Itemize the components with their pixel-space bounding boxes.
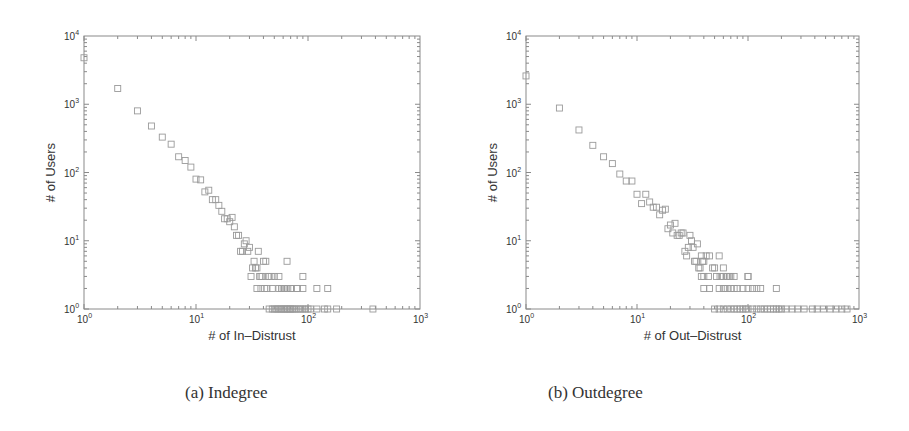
data-point-square [263, 258, 269, 264]
data-point-square [698, 273, 704, 279]
data-point-square [115, 86, 121, 92]
data-point-square [707, 285, 713, 291]
data-points [523, 73, 850, 312]
data-point-square [188, 164, 194, 170]
data-point-square [745, 273, 751, 279]
data-point-square [262, 285, 268, 291]
data-point-square [216, 202, 222, 208]
data-point-square [601, 154, 607, 160]
y-axis-label: # of Users [485, 142, 500, 202]
x-tick-label: 103 [852, 312, 867, 325]
data-point-square [148, 123, 154, 129]
data-point-square [294, 285, 300, 291]
data-point-square [300, 285, 306, 291]
y-tick-label: 101 [506, 234, 521, 247]
y-tick-label: 102 [64, 166, 79, 179]
data-point-square [692, 258, 698, 264]
caption-indegree: (a) Indegree [185, 383, 268, 403]
data-point-square [716, 285, 722, 291]
data-point-square [294, 285, 300, 291]
x-tick-label: 100 [519, 312, 534, 325]
data-point-square [629, 178, 635, 184]
plot-frame [84, 36, 420, 309]
data-point-square [176, 154, 182, 160]
data-point-square [168, 141, 174, 147]
y-tick-label: 104 [506, 29, 521, 42]
data-point-square [643, 191, 649, 197]
x-tick-label: 101 [630, 312, 645, 325]
data-point-square [236, 232, 242, 238]
data-point-square [720, 285, 726, 291]
outdegree-scatter-plot: 100101102103100101102103104# of Out–Dist… [450, 0, 909, 431]
data-point-square [219, 208, 225, 214]
data-point-square [754, 285, 760, 291]
indegree-scatter-plot: 100101102103100101102103104# of In–Distr… [0, 0, 450, 431]
data-point-square [590, 142, 596, 148]
data-point-square [694, 241, 700, 247]
data-point-square [639, 201, 645, 207]
panel-indegree: 100101102103100101102103104# of In–Distr… [0, 0, 450, 431]
data-point-square [260, 258, 266, 264]
x-tick-label: 101 [189, 312, 204, 325]
data-point-square [745, 273, 751, 279]
data-point-square [722, 285, 728, 291]
data-point-square [712, 265, 718, 271]
x-tick-label: 102 [741, 312, 756, 325]
data-point-square [674, 232, 680, 238]
data-point-square [206, 187, 212, 193]
x-tick-label: 102 [301, 312, 316, 325]
data-point-square [255, 248, 261, 254]
data-point-square [284, 258, 290, 264]
x-axis-label: # of Out–Distrust [644, 328, 742, 343]
data-point-square [684, 253, 690, 259]
plot-frame [526, 36, 859, 309]
data-point-square [676, 232, 682, 238]
data-point-square [300, 273, 306, 279]
data-point-square [238, 248, 244, 254]
data-point-square [248, 273, 254, 279]
data-point-square [325, 285, 331, 291]
x-tick-label: 103 [413, 312, 428, 325]
panel-outdegree: 100101102103100101102103104# of Out–Dist… [450, 0, 909, 431]
data-point-square [182, 157, 188, 163]
data-point-square [680, 230, 686, 236]
y-axis-label: # of Users [43, 142, 58, 202]
data-points [81, 55, 376, 312]
data-point-square [678, 230, 684, 236]
data-point-square [556, 105, 562, 111]
data-point-square [720, 265, 726, 271]
data-point-square [724, 285, 730, 291]
data-point-square [623, 178, 629, 184]
data-point-square [314, 285, 320, 291]
data-point-square [634, 191, 640, 197]
y-tick-label: 103 [64, 97, 79, 110]
data-point-square [617, 171, 623, 177]
data-point-square [159, 134, 165, 140]
y-tick-label: 102 [506, 166, 521, 179]
data-point-square [672, 220, 678, 226]
data-point-square [254, 265, 260, 271]
y-tick-label: 103 [506, 97, 521, 110]
x-tick-label: 100 [77, 312, 92, 325]
data-point-square [716, 253, 722, 259]
data-point-square [251, 258, 257, 264]
data-point-square [701, 273, 707, 279]
data-point-square [609, 161, 615, 167]
caption-outdegree: (b) Outdegree [548, 383, 643, 403]
x-axis-label: # of In–Distrust [208, 328, 296, 343]
data-point-square [773, 285, 779, 291]
data-point-square [705, 273, 711, 279]
data-point-square [750, 285, 756, 291]
data-point-square [254, 285, 260, 291]
data-point-square [758, 285, 764, 291]
data-point-square [258, 285, 264, 291]
y-tick-label: 101 [64, 234, 79, 247]
data-point-square [202, 189, 208, 195]
data-point-square [134, 108, 140, 114]
data-point-square [667, 222, 673, 228]
y-tick-label: 104 [64, 29, 79, 42]
data-point-square [576, 127, 582, 133]
data-point-square [234, 232, 240, 238]
data-point-square [710, 265, 716, 271]
data-point-square [701, 285, 707, 291]
